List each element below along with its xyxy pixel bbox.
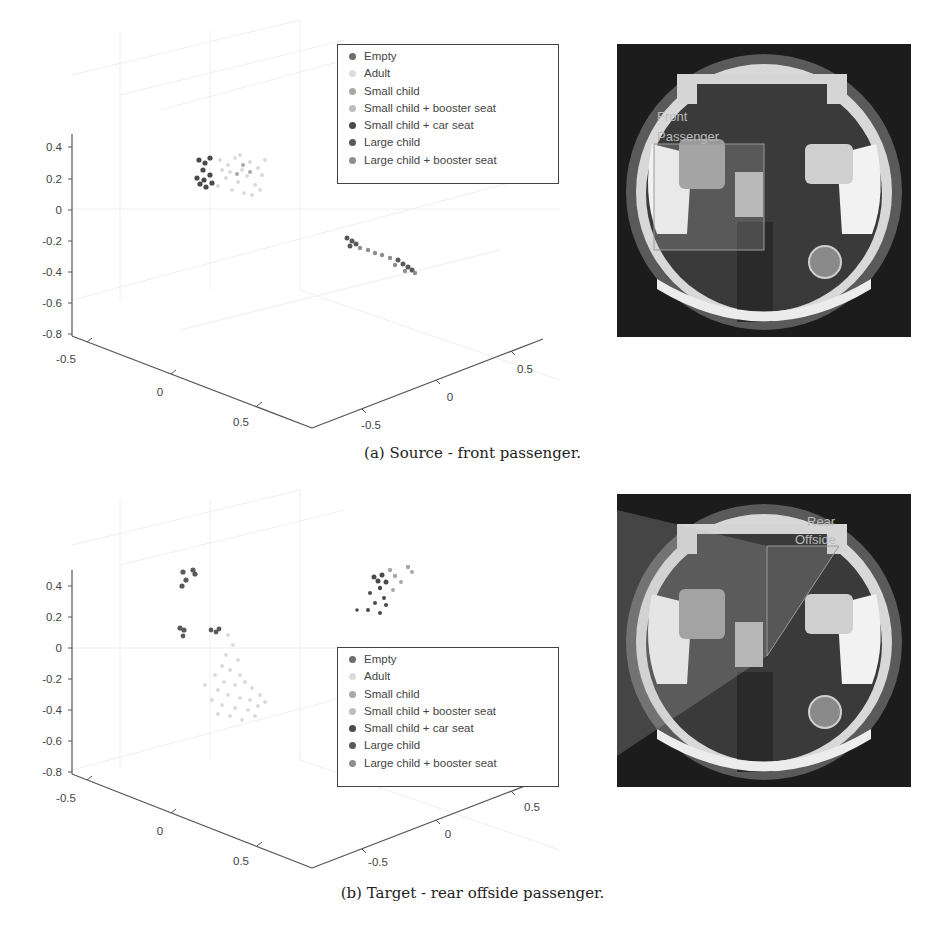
z-tick-label: -0.2 [42, 673, 62, 685]
x-tick-label: 0.5 [233, 416, 249, 428]
marker-dot-icon [349, 656, 356, 663]
marker-dot-icon [349, 105, 356, 112]
y-tick-label: 0 [447, 391, 453, 403]
marker-dot-icon [349, 760, 356, 767]
x-tick-label: -0.5 [56, 792, 76, 804]
legend-label: Large child [364, 136, 420, 148]
legend-item-adult: Adult [364, 65, 550, 82]
z-tick-label: -0.8 [42, 328, 62, 340]
x-tick-label: -0.5 [56, 353, 76, 365]
legend-label: Small child + car seat [364, 119, 474, 131]
legend-b: Empty Adult Small child Small child + bo… [337, 647, 559, 787]
x-tick-label: 0 [157, 825, 163, 837]
figure-panel-a: 0.4 0.2 0 -0.2 -0.4 -0.6 -0.8 -0.5 0 0.5… [0, 0, 945, 470]
z-tick-label: 0.4 [46, 141, 63, 153]
legend-label: Empty [364, 50, 397, 62]
legend-item-small-child-car-seat: Small child + car seat [364, 117, 550, 134]
z-tick-label: -0.2 [42, 235, 62, 247]
marker-dot-icon [349, 122, 356, 129]
caption-a: (a) Source - front passenger. [0, 444, 945, 462]
marker-dot-icon [349, 139, 356, 146]
figure-panel-b: 0.4 0.2 0 -0.2 -0.4 -0.6 -0.8 -0.5 0 0.5… [0, 470, 945, 939]
fisheye-cabin-image: Front Passenger [617, 44, 911, 337]
camera-image-rear-offside: Rear Offside [617, 494, 911, 787]
x-tick-label: 0.5 [233, 855, 249, 867]
marker-dot-icon [349, 673, 356, 680]
camera-region-label: Front [657, 109, 688, 124]
z-tick-label: -0.4 [42, 704, 62, 716]
fisheye-cabin-image: Rear Offside [617, 494, 911, 787]
legend-item-large-child-booster: Large child + booster seat [364, 152, 550, 169]
legend-item-small-child: Small child [364, 83, 550, 100]
z-tick-label: 0 [56, 204, 62, 216]
y-tick-label: -0.5 [368, 856, 388, 868]
legend-label: Small child [364, 688, 420, 700]
legend-label: Small child [364, 85, 420, 97]
legend-item-adult: Adult [364, 668, 550, 685]
legend-label: Adult [364, 67, 390, 79]
legend-label: Small child + car seat [364, 722, 474, 734]
marker-dot-icon [349, 53, 356, 60]
legend-label: Large child [364, 739, 420, 751]
z-tick-label: 0.2 [46, 611, 62, 623]
marker-dot-icon [349, 725, 356, 732]
z-tick-label: 0.4 [46, 580, 63, 592]
camera-region-label: Passenger [657, 129, 720, 144]
legend-item-small-child-booster: Small child + booster seat [364, 703, 550, 720]
marker-dot-icon [349, 70, 356, 77]
z-tick-label: -0.8 [42, 766, 62, 778]
marker-dot-icon [349, 742, 356, 749]
marker-dot-icon [349, 157, 356, 164]
camera-region-label: Rear [807, 514, 836, 529]
z-tick-label: -0.4 [42, 266, 62, 278]
caption-b: (b) Target - rear offside passenger. [0, 884, 945, 902]
y-tick-label: 0.5 [524, 801, 540, 813]
legend-item-large-child: Large child [364, 134, 550, 151]
z-tick-label: -0.6 [42, 297, 62, 309]
camera-image-front-passenger: Front Passenger [617, 44, 911, 337]
legend-label: Small child + booster seat [364, 705, 496, 717]
camera-region-label: Offside [795, 532, 836, 547]
y-tick-label: 0 [445, 828, 451, 840]
legend-item-empty: Empty [364, 651, 550, 668]
legend-a: Empty Adult Small child Small child + bo… [337, 44, 559, 184]
z-tick-label: 0 [56, 642, 62, 654]
marker-dot-icon [349, 708, 356, 715]
legend-label: Small child + booster seat [364, 102, 496, 114]
z-tick-label: 0.2 [46, 173, 62, 185]
legend-item-empty: Empty [364, 48, 550, 65]
z-tick-label: -0.6 [42, 735, 62, 747]
y-tick-label: 0.5 [517, 363, 533, 375]
legend-label: Adult [364, 670, 390, 682]
legend-label: Large child + booster seat [364, 154, 497, 166]
legend-item-large-child-booster: Large child + booster seat [364, 755, 550, 772]
marker-dot-icon [349, 691, 356, 698]
legend-item-small-child: Small child [364, 686, 550, 703]
y-tick-label: -0.5 [361, 419, 381, 431]
legend-item-small-child-car-seat: Small child + car seat [364, 720, 550, 737]
legend-item-large-child: Large child [364, 737, 550, 754]
legend-label: Empty [364, 653, 397, 665]
marker-dot-icon [349, 88, 356, 95]
legend-label: Large child + booster seat [364, 757, 497, 769]
legend-item-small-child-booster: Small child + booster seat [364, 100, 550, 117]
x-tick-label: 0 [157, 386, 163, 398]
